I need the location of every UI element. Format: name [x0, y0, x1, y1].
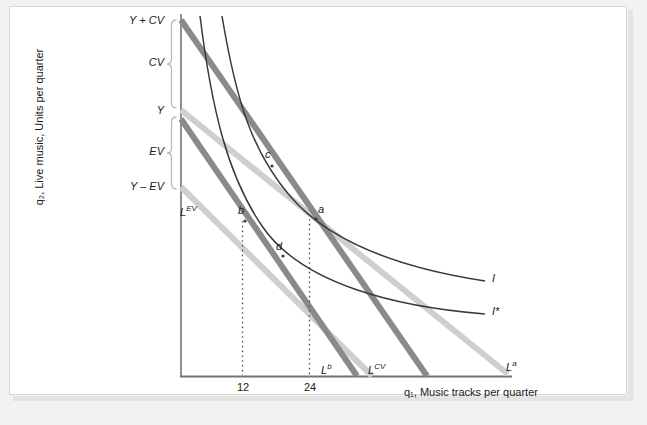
- brace-label-ev: EV: [102, 145, 164, 157]
- budget-label-la-sup: a: [512, 359, 516, 368]
- x-tick-24: 24: [295, 381, 325, 393]
- x-axis-title: q₁, Music tracks per quarter: [404, 386, 538, 398]
- y-axis-title-wrap: q₂, Live music, Units per quarter: [29, 32, 47, 222]
- budget-label-lcv: LCV: [368, 362, 385, 376]
- budget-label-lev-sup: EV: [186, 204, 197, 213]
- figure-page: Y + CV CV Y EV Y – EV 12 24 a b c d I I*…: [0, 0, 647, 425]
- budget-label-la: La: [506, 359, 517, 373]
- point-label-b: b: [238, 204, 244, 216]
- budget-line-lcv: [181, 20, 427, 376]
- y-label-y-minus-ev: Y – EV: [102, 180, 164, 192]
- curve-label-i: I: [492, 272, 495, 284]
- brace-ev: [167, 117, 177, 189]
- budget-label-lb-sup: b: [327, 362, 331, 371]
- point-marker-b: [243, 219, 246, 222]
- brace-cv: [167, 20, 177, 108]
- y-label-y-plus-cv: Y + CV: [102, 14, 164, 26]
- point-marker-d: [281, 254, 284, 257]
- y-label-y: Y: [102, 104, 164, 116]
- brace-label-cv: CV: [102, 56, 164, 68]
- budget-line-la: [181, 110, 508, 374]
- budget-label-lev: LEV: [180, 204, 197, 218]
- point-label-a: a: [318, 203, 324, 215]
- x-axis-title-wrap: q₁, Music tracks per quarter: [404, 382, 538, 400]
- budget-label-lcv-sup: CV: [374, 362, 385, 371]
- y-axis-title: q₂, Live music, Units per quarter: [33, 49, 45, 206]
- point-label-d: d: [276, 240, 282, 252]
- curve-label-i-star: I*: [492, 305, 499, 317]
- point-marker-a: [314, 217, 317, 220]
- budget-label-lb: Lb: [321, 362, 332, 376]
- budget-line-lev: [181, 187, 372, 376]
- point-marker-c: [270, 164, 273, 167]
- point-label-c: c: [265, 148, 271, 160]
- x-tick-12: 12: [228, 381, 258, 393]
